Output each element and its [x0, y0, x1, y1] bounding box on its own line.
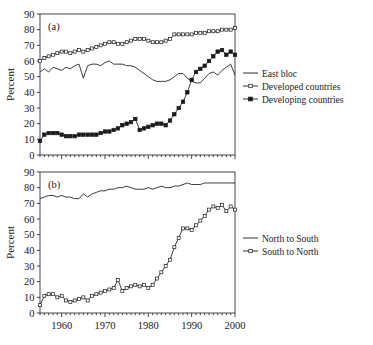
series-marker-2	[69, 135, 72, 138]
series-marker-1	[234, 208, 237, 211]
series-marker-1	[195, 31, 198, 34]
series-marker-1	[216, 207, 219, 210]
series-marker-2	[233, 53, 236, 56]
series-marker-1	[52, 293, 55, 296]
series-marker-2	[199, 67, 202, 70]
series-marker-1	[156, 41, 159, 44]
y-tick-label: 60	[24, 56, 35, 67]
series-marker-1	[143, 38, 146, 41]
panel-label: (b)	[48, 179, 61, 191]
series-line-0	[40, 183, 235, 199]
series-marker-1	[225, 210, 228, 213]
y-tick-label: 40	[24, 87, 35, 98]
y-tick-label: 0	[29, 150, 34, 161]
series-marker-1	[212, 205, 215, 208]
legend-entry: South to North	[243, 247, 319, 257]
legend-label: Developing countries	[262, 95, 344, 105]
series-marker-2	[142, 127, 145, 130]
series-marker-1	[52, 53, 55, 56]
series-marker-2	[216, 50, 219, 53]
series-marker-1	[151, 41, 154, 44]
series-marker-1	[216, 30, 219, 33]
series-marker-1	[199, 219, 202, 222]
series-marker-1	[43, 294, 46, 297]
legend-label: North to South	[262, 234, 319, 244]
series-marker-1	[73, 50, 76, 53]
series-marker-1	[186, 33, 189, 36]
y-tick-label: 20	[24, 276, 35, 287]
series-marker-2	[173, 113, 176, 116]
series-marker-1	[195, 224, 198, 227]
series-marker-1	[56, 52, 59, 55]
y-tick-label: 40	[24, 245, 35, 256]
series-marker-1	[60, 294, 63, 297]
series-marker-1	[234, 27, 237, 30]
y-axis-label: Percent	[4, 68, 16, 101]
series-marker-1	[117, 42, 120, 45]
series-marker-1	[86, 299, 89, 302]
series-marker-1	[134, 283, 137, 286]
series-marker-1	[203, 214, 206, 217]
series-marker-2	[151, 124, 154, 127]
y-tick-label: 30	[24, 103, 35, 114]
y-axis-label: Percent	[4, 226, 16, 259]
series-marker-2	[103, 130, 106, 133]
series-marker-1	[225, 28, 228, 31]
series-marker-2	[220, 48, 223, 51]
legend-entry: North to South	[243, 234, 319, 244]
legend-open-square-icon	[249, 84, 252, 87]
series-marker-2	[190, 78, 193, 81]
series-marker-2	[194, 70, 197, 73]
series-marker-1	[130, 39, 133, 42]
y-tick-label: 80	[24, 182, 35, 193]
legend-label: East bloc	[262, 69, 297, 79]
series-marker-1	[229, 28, 232, 31]
series-marker-2	[82, 133, 85, 136]
y-tick-label: 50	[24, 229, 35, 240]
series-marker-2	[73, 135, 76, 138]
series-marker-1	[108, 288, 111, 291]
series-marker-2	[134, 117, 137, 120]
series-marker-2	[47, 131, 50, 134]
y-tick-label: 20	[24, 118, 35, 129]
series-marker-2	[95, 133, 98, 136]
series-marker-1	[108, 41, 111, 44]
y-tick-label: 90	[24, 9, 35, 20]
legend-entry: Developed countries	[243, 82, 341, 92]
series-marker-1	[78, 297, 81, 300]
legend-label: Developed countries	[262, 82, 341, 92]
series-marker-2	[60, 133, 63, 136]
series-marker-2	[164, 124, 167, 127]
series-marker-2	[38, 139, 41, 142]
y-tick-label: 30	[24, 261, 35, 272]
series-marker-1	[99, 291, 102, 294]
figure-container: 0102030405060708090Percent(a)East blocDe…	[0, 0, 373, 345]
series-marker-1	[190, 33, 193, 36]
series-marker-1	[99, 44, 102, 47]
series-marker-1	[160, 271, 163, 274]
series-marker-1	[121, 290, 124, 293]
series-marker-2	[77, 133, 80, 136]
panel-b: 010203040506070809019601970198019902000P…	[4, 167, 319, 331]
x-tick-label: 2000	[225, 320, 246, 331]
series-marker-1	[138, 285, 141, 288]
series-marker-1	[95, 45, 98, 48]
y-tick-label: 10	[24, 292, 35, 303]
series-marker-1	[112, 41, 115, 44]
series-marker-1	[182, 33, 185, 36]
series-marker-1	[208, 208, 211, 211]
series-marker-1	[169, 38, 172, 41]
series-marker-1	[182, 227, 185, 230]
series-marker-1	[86, 49, 89, 52]
series-marker-2	[168, 119, 171, 122]
series-marker-2	[160, 122, 163, 125]
series-marker-2	[229, 50, 232, 53]
series-marker-1	[39, 60, 42, 63]
series-marker-2	[129, 120, 132, 123]
x-tick-label: 1970	[95, 320, 116, 331]
series-marker-1	[69, 52, 72, 55]
series-marker-1	[121, 42, 124, 45]
series-marker-1	[199, 31, 202, 34]
series-marker-1	[203, 31, 206, 34]
series-marker-1	[104, 290, 107, 293]
